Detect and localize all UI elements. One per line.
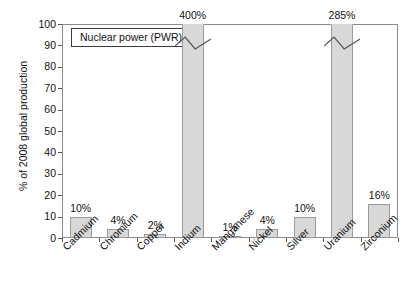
x-axis-tick-mark (398, 238, 399, 242)
x-axis-label-chromium: Chromium (97, 210, 140, 253)
x-axis-label-nickel: Nickel (246, 224, 275, 253)
x-axis-label-copper: Copper (134, 220, 167, 253)
bar-chart: % of 2008 global production 100908070605… (0, 0, 415, 298)
x-axis-label-uranium: Uranium (321, 216, 358, 253)
x-axis-categories: CadmiumChromiumCopperIndiumManganeseNick… (0, 0, 415, 298)
x-axis-label-silver: Silver (284, 225, 311, 252)
x-axis-label-cadmium: Cadmium (60, 212, 100, 252)
x-axis-label-zirconium: Zirconium (358, 211, 399, 252)
x-axis-label-indium: Indium (172, 222, 203, 253)
